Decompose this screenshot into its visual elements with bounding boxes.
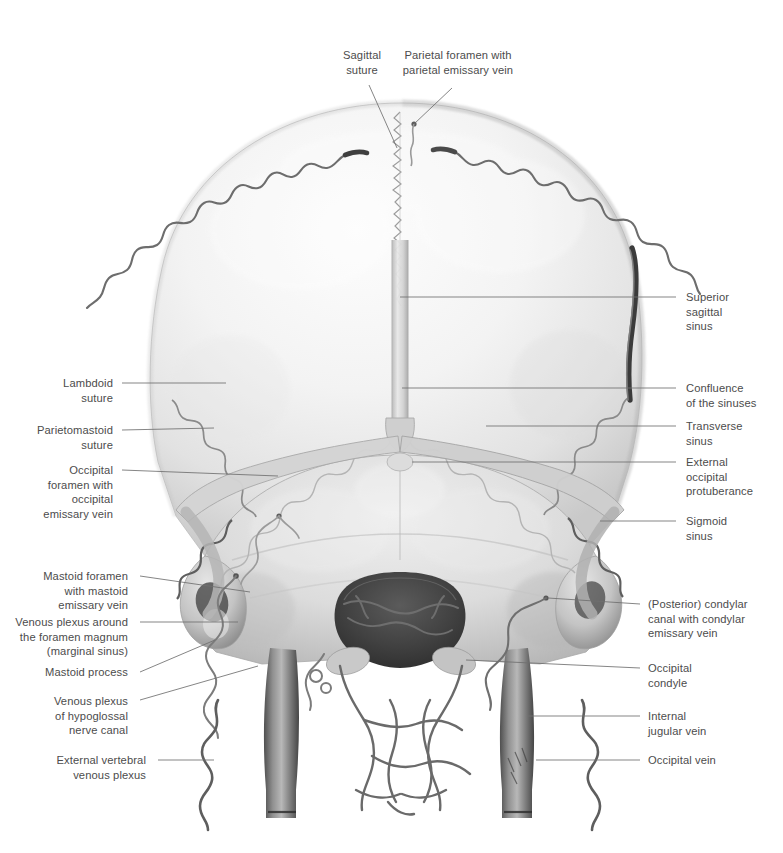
label-parietal-foramen: Parietal foramen with parietal emissary … [390, 48, 526, 77]
label-external-occipital-protuberance: External occipital protuberance [686, 455, 782, 499]
label-occipital-vein: Occipital vein [648, 753, 760, 768]
label-sigmoid-sinus: Sigmoid sinus [686, 514, 782, 543]
external-vertebral-plexus-lateral [200, 700, 600, 830]
external-occipital-protuberance [387, 453, 413, 471]
label-venous-plexus-foramen-magnum: Venous plexus around the foramen magnum … [0, 615, 128, 659]
label-lambdoid-suture: Lambdoid suture [0, 376, 113, 405]
label-mastoid-process: Mastoid process [0, 665, 128, 680]
internal-jugular-vein-left [264, 648, 299, 818]
label-occipital-condyle: Occipital condyle [648, 661, 744, 690]
internal-jugular-vein-right [500, 648, 534, 818]
external-vertebral-venous-plexus [340, 666, 470, 815]
label-posterior-condylar-canal: (Posterior) condylar canal with condylar… [648, 597, 783, 641]
superior-sagittal-sinus [392, 240, 408, 422]
label-occipital-foramen: Occipital foramen with occipital emissar… [0, 463, 113, 521]
label-parietomastoid-suture: Parietomastoid suture [0, 423, 113, 452]
label-venous-plexus-hypoglossal: Venous plexus of hypoglossal nerve canal [0, 694, 128, 738]
label-internal-jugular-vein: Internal jugular vein [648, 709, 744, 738]
label-external-vertebral-plexus: External vertebral venous plexus [0, 753, 146, 782]
label-transverse-sinus: Transverse sinus [686, 419, 782, 448]
label-mastoid-foramen: Mastoid foramen with mastoid emissary ve… [0, 569, 128, 613]
label-confluence-of-sinuses: Confluence of the sinuses [686, 381, 782, 410]
label-superior-sagittal-sinus: Superior sagittal sinus [686, 290, 782, 334]
